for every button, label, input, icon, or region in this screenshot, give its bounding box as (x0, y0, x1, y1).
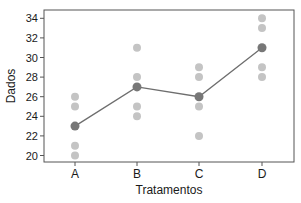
y-tick-label: 32 (26, 32, 38, 44)
mean-polyline (75, 48, 262, 126)
observation-point (133, 44, 141, 52)
observation-point (71, 93, 79, 101)
observation-point (195, 73, 203, 81)
y-axis: 2022242628303234 (26, 12, 44, 161)
y-tick-label: 30 (26, 52, 38, 64)
observation-point (133, 103, 141, 111)
y-tick-label: 20 (26, 150, 38, 162)
chart: 2022242628303234 ABCD Tratamentos Dados (0, 0, 301, 203)
observation-point (133, 112, 141, 120)
y-axis-title: Dados (4, 69, 18, 104)
plot-border (44, 10, 294, 162)
observation-point (71, 152, 79, 160)
x-tick-label: A (71, 167, 79, 181)
y-tick-label: 22 (26, 130, 38, 142)
observation-point (258, 14, 266, 22)
observation-point (71, 103, 79, 111)
mean-point (71, 122, 80, 131)
mean-line (75, 48, 262, 126)
x-axis: ABCD (71, 162, 267, 181)
observation-points (71, 14, 266, 159)
observation-point (195, 103, 203, 111)
observation-point (195, 132, 203, 140)
observation-point (258, 24, 266, 32)
y-tick-label: 24 (26, 110, 38, 122)
observation-point (133, 73, 141, 81)
observation-point (258, 63, 266, 71)
mean-point (195, 92, 204, 101)
observation-point (258, 73, 266, 81)
observation-point (71, 142, 79, 150)
x-axis-title: Tratamentos (136, 183, 203, 197)
observation-point (195, 63, 203, 71)
y-tick-label: 28 (26, 71, 38, 83)
x-tick-label: D (258, 167, 267, 181)
mean-point (133, 82, 142, 91)
y-tick-label: 26 (26, 91, 38, 103)
mean-points (71, 43, 267, 130)
y-tick-label: 34 (26, 12, 38, 24)
plot-frame (44, 10, 294, 162)
x-tick-label: B (133, 167, 141, 181)
mean-point (258, 43, 267, 52)
x-tick-label: C (195, 167, 204, 181)
